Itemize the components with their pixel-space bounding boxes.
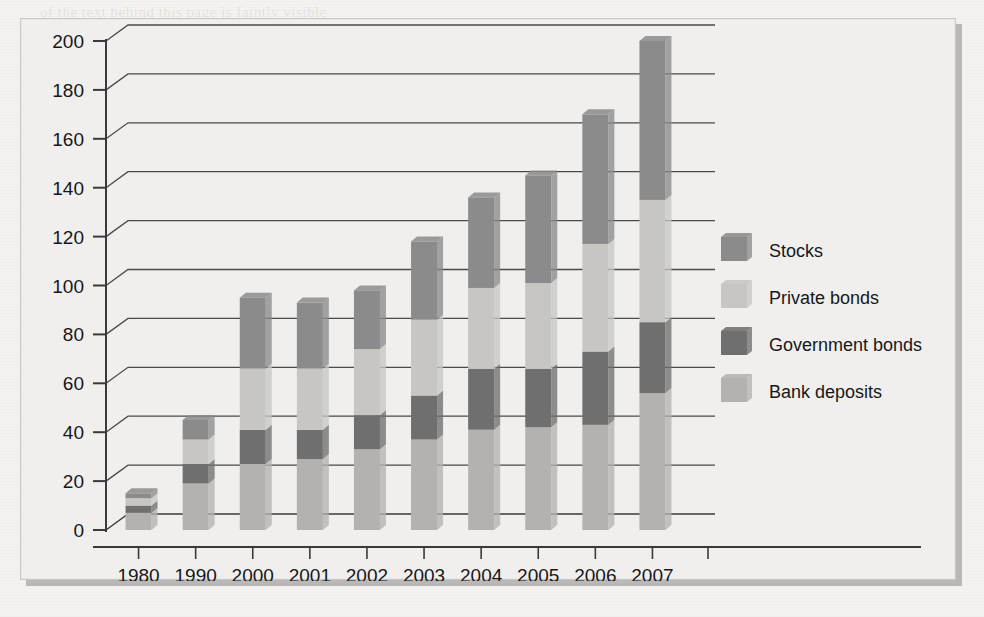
legend-swatch-side	[747, 280, 752, 308]
stacked-bar-chart: 0204060801001201401601802001980199020002…	[21, 19, 957, 581]
bar-segment-side	[209, 435, 215, 464]
bar-segment-private-bonds[interactable]	[582, 244, 608, 352]
bar-2004[interactable]	[468, 192, 500, 530]
legend-swatch	[721, 331, 747, 355]
legend-item-bank-deposits[interactable]: Bank deposits	[721, 374, 882, 402]
bar-segment-stocks[interactable]	[354, 290, 380, 349]
bar-segment-side	[380, 444, 386, 530]
bar-segment-government-bonds[interactable]	[240, 430, 266, 464]
chart-frame: 0204060801001201401601802001980199020002…	[20, 18, 956, 580]
bar-segment-side	[494, 425, 500, 530]
bar-segment-side	[380, 285, 386, 349]
bar-segment-stocks[interactable]	[240, 298, 266, 369]
bar-segment-bank-deposits[interactable]	[468, 430, 494, 530]
gridline	[106, 318, 715, 334]
y-axis-tick-label: 80	[63, 324, 84, 345]
bar-segment-bank-deposits[interactable]	[126, 513, 152, 530]
y-axis-tick-label: 140	[52, 178, 84, 199]
bar-segment-private-bonds[interactable]	[297, 369, 323, 430]
bar-segment-stocks[interactable]	[468, 197, 494, 287]
y-axis-tick-label: 60	[63, 373, 84, 394]
bar-segment-bank-deposits[interactable]	[297, 459, 323, 530]
bar-segment-side	[437, 236, 443, 319]
bar-segment-bank-deposits[interactable]	[582, 425, 608, 530]
bar-2007[interactable]	[639, 36, 671, 530]
bar-segment-private-bonds[interactable]	[468, 288, 494, 369]
bar-segment-stocks[interactable]	[126, 493, 152, 498]
legend-label: Stocks	[769, 241, 823, 261]
legend-item-private-bonds[interactable]: Private bonds	[721, 280, 879, 308]
legend-swatch	[721, 284, 747, 308]
bar-2003[interactable]	[411, 236, 443, 530]
bar-segment-side	[323, 425, 329, 459]
bar-segment-stocks[interactable]	[525, 175, 551, 283]
bar-2002[interactable]	[354, 285, 386, 530]
x-axis-tick-label-1990: 1990	[175, 565, 217, 581]
x-axis-tick-label-2002: 2002	[346, 565, 388, 581]
bar-segment-government-bonds[interactable]	[183, 464, 209, 484]
bar-segment-side	[494, 364, 500, 430]
bar-segment-side	[665, 317, 671, 393]
bar-segment-bank-deposits[interactable]	[525, 427, 551, 530]
bar-segment-bank-deposits[interactable]	[639, 393, 665, 530]
y-axis-tick-label: 40	[63, 422, 84, 443]
bar-segment-side	[266, 425, 272, 464]
bar-segment-stocks[interactable]	[411, 241, 437, 319]
bar-1990[interactable]	[183, 415, 215, 530]
bar-segment-side	[608, 347, 614, 425]
legend-label: Bank deposits	[769, 382, 882, 402]
bar-segment-bank-deposits[interactable]	[183, 484, 209, 530]
y-axis-tick-label: 0	[73, 520, 84, 541]
bar-segment-stocks[interactable]	[582, 114, 608, 244]
bar-segment-private-bonds[interactable]	[354, 349, 380, 415]
gridlines	[106, 25, 715, 481]
bar-segment-private-bonds[interactable]	[240, 369, 266, 430]
bar-segment-bank-deposits[interactable]	[354, 449, 380, 530]
bar-segment-private-bonds[interactable]	[411, 320, 437, 396]
bar-2000[interactable]	[240, 293, 272, 530]
gridline	[106, 172, 715, 188]
bar-segment-stocks[interactable]	[639, 41, 665, 200]
bar-segment-side	[665, 36, 671, 200]
x-axis-labels: 1980199020002001200220032004200520062007	[117, 547, 708, 581]
bar-segment-government-bonds[interactable]	[411, 396, 437, 440]
bar-segment-government-bonds[interactable]	[525, 369, 551, 428]
bar-segment-government-bonds[interactable]	[582, 352, 608, 425]
bar-segment-bank-deposits[interactable]	[240, 464, 266, 530]
bar-2006[interactable]	[582, 109, 614, 530]
bar-segment-stocks[interactable]	[183, 420, 209, 440]
legend: StocksPrivate bondsGovernment bondsBank …	[721, 233, 922, 402]
bar-segment-government-bonds[interactable]	[126, 506, 152, 513]
bar-segment-side	[437, 315, 443, 396]
legend-swatch	[721, 378, 747, 402]
plot-area: 0204060801001201401601802001980199020002…	[21, 19, 957, 581]
bar-segment-stocks[interactable]	[297, 303, 323, 369]
bar-2005[interactable]	[525, 170, 557, 530]
y-axis-tick-label: 180	[52, 80, 84, 101]
bar-segment-government-bonds[interactable]	[639, 322, 665, 393]
bar-segment-private-bonds[interactable]	[525, 283, 551, 369]
bar-segment-private-bonds[interactable]	[639, 200, 665, 322]
legend-item-government-bonds[interactable]: Government bonds	[721, 327, 922, 355]
gridline	[106, 221, 715, 237]
bar-segment-private-bonds[interactable]	[126, 498, 152, 505]
legend-swatch	[721, 237, 747, 261]
bar-segment-side	[551, 364, 557, 428]
bar-segment-government-bonds[interactable]	[468, 369, 494, 430]
legend-item-stocks[interactable]: Stocks	[721, 233, 823, 261]
x-axis-tick-label-2001: 2001	[289, 565, 331, 581]
bar-segment-side	[551, 170, 557, 283]
bar-2001[interactable]	[297, 298, 329, 530]
bar-segment-side	[380, 410, 386, 449]
bar-segment-government-bonds[interactable]	[297, 430, 323, 459]
x-axis	[93, 514, 921, 547]
bar-segment-side	[551, 422, 557, 530]
bar-segment-side	[323, 298, 329, 369]
bar-segment-private-bonds[interactable]	[183, 440, 209, 464]
bar-segment-side	[608, 239, 614, 352]
bar-segment-bank-deposits[interactable]	[411, 440, 437, 530]
x-axis-tick-label-2003: 2003	[403, 565, 445, 581]
legend-swatch-side	[747, 233, 752, 261]
bar-1980[interactable]	[126, 488, 158, 530]
bar-segment-government-bonds[interactable]	[354, 415, 380, 449]
